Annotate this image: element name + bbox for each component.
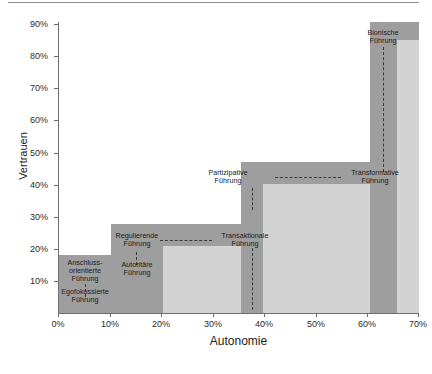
y-tick-mark — [54, 24, 58, 25]
x-tick-mark — [316, 313, 317, 317]
x-tick-label: 50% — [296, 319, 336, 329]
x-tick-mark — [367, 313, 368, 317]
y-axis-title: Vertrauen — [17, 111, 29, 201]
leader-line-transaktionale — [160, 240, 212, 241]
label-regulierende-fuehrung: Regulierende Führung — [108, 232, 166, 248]
y-tick-mark — [54, 153, 58, 154]
label-partizipative-fuehrung: Partizipative Führung — [199, 169, 257, 185]
y-tick-mark — [54, 120, 58, 121]
leader-line-transaktionale-drop — [252, 248, 253, 310]
label-bionische-fuehrung: Bionische Führung — [355, 29, 411, 45]
y-tick-mark — [54, 217, 58, 218]
x-axis-line — [58, 313, 419, 314]
y-tick-label: 20% — [18, 245, 48, 254]
y-tick-label: 90% — [18, 20, 48, 29]
leader-line-bionische — [383, 47, 384, 172]
y-tick-label: 80% — [18, 52, 48, 61]
label-transformative-fuehrung: Transformative Führung — [342, 169, 408, 185]
y-tick-mark — [54, 56, 58, 57]
x-tick-mark — [110, 313, 111, 317]
y-tick-mark — [54, 88, 58, 89]
label-autoritaere-fuehrung: Autoritäre Führung — [110, 261, 164, 277]
x-axis-title: Autonomie — [58, 334, 419, 348]
x-tick-label: 70% — [398, 319, 432, 329]
x-tick-mark — [58, 313, 59, 317]
y-tick-mark — [54, 185, 58, 186]
x-tick-label: 60% — [347, 319, 387, 329]
x-tick-mark — [418, 313, 419, 317]
x-tick-mark — [264, 313, 265, 317]
y-tick-mark — [54, 249, 58, 250]
x-tick-mark — [213, 313, 214, 317]
label-anschlussorientierte-fuehrung: Anschluss- orientierte Führung — [57, 259, 113, 284]
x-tick-label: 40% — [244, 319, 284, 329]
x-tick-label: 20% — [141, 319, 181, 329]
y-tick-label: 70% — [18, 84, 48, 93]
x-tick-mark — [161, 313, 162, 317]
y-tick-label: 10% — [18, 277, 48, 286]
y-tick-label: 30% — [18, 213, 48, 222]
x-tick-label: 0% — [38, 319, 78, 329]
leader-line-transformative — [275, 177, 341, 178]
leader-line-partizipative — [252, 188, 253, 210]
x-tick-label: 30% — [193, 319, 233, 329]
top-divider — [8, 2, 419, 3]
label-transaktionale-fuehrung: Transaktionale Führung — [214, 232, 276, 248]
x-tick-label: 10% — [90, 319, 130, 329]
label-egofokussierte-fuehrung: Egofokussierte Führung — [54, 288, 116, 304]
